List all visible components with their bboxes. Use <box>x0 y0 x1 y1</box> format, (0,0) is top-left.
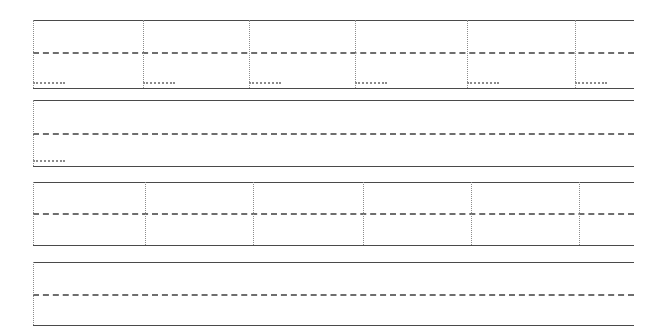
lane-band <box>0 0 662 336</box>
bottom-edge-line <box>33 325 634 326</box>
vertical-dotted-marker <box>33 262 34 325</box>
top-edge-line <box>33 262 634 263</box>
center-broken-line <box>33 294 634 296</box>
diagram-canvas <box>0 0 662 336</box>
